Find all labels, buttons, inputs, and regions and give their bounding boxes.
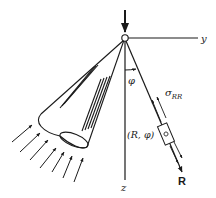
origin-point <box>122 35 128 41</box>
angle-arc <box>125 69 136 70</box>
z-axis-label: z <box>120 182 127 193</box>
stress-subscript: RR <box>171 93 183 101</box>
stress-element <box>157 123 174 145</box>
point-coordinates-label: (R, φ) <box>127 129 155 140</box>
cone-shape <box>38 40 124 151</box>
y-axis-label: y <box>200 33 207 44</box>
r-ray-label: R <box>178 175 186 187</box>
stress-label: σRR <box>165 87 183 101</box>
angle-label: φ <box>128 75 135 86</box>
diagram-canvas: y z φ R <box>0 0 216 198</box>
r-ray <box>126 41 182 172</box>
